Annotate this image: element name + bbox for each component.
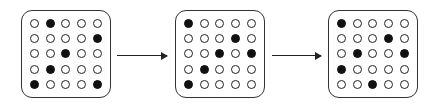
filled-dot-icon bbox=[400, 49, 409, 58]
empty-dot-icon bbox=[77, 65, 86, 74]
empty-dot-icon bbox=[384, 49, 393, 58]
empty-dot-icon bbox=[231, 19, 240, 28]
filled-dot-icon bbox=[384, 34, 393, 43]
right-arrow-icon bbox=[117, 55, 167, 56]
filled-dot-icon bbox=[184, 80, 193, 89]
empty-dot-icon bbox=[215, 34, 224, 43]
filled-dot-icon bbox=[30, 80, 39, 89]
empty-dot-icon bbox=[247, 65, 256, 74]
empty-dot-icon bbox=[30, 19, 39, 28]
empty-dot-icon bbox=[215, 19, 224, 28]
empty-dot-icon bbox=[200, 49, 209, 58]
filled-dot-icon bbox=[368, 80, 377, 89]
empty-dot-icon bbox=[30, 65, 39, 74]
filled-dot-icon bbox=[93, 80, 102, 89]
empty-dot-icon bbox=[353, 65, 362, 74]
empty-dot-icon bbox=[30, 49, 39, 58]
empty-dot-icon bbox=[77, 34, 86, 43]
empty-dot-icon bbox=[61, 19, 70, 28]
empty-dot-icon bbox=[400, 19, 409, 28]
empty-dot-icon bbox=[384, 19, 393, 28]
filled-dot-icon bbox=[200, 65, 209, 74]
empty-dot-icon bbox=[400, 80, 409, 89]
empty-dot-icon bbox=[337, 34, 346, 43]
empty-dot-icon bbox=[77, 19, 86, 28]
empty-dot-icon bbox=[384, 65, 393, 74]
empty-dot-icon bbox=[184, 49, 193, 58]
right-arrow-icon bbox=[272, 55, 321, 56]
empty-dot-icon bbox=[368, 49, 377, 58]
empty-dot-icon bbox=[384, 80, 393, 89]
grid-3 bbox=[328, 10, 418, 98]
empty-dot-icon bbox=[231, 80, 240, 89]
filled-dot-icon bbox=[46, 65, 55, 74]
filled-dot-icon bbox=[46, 19, 55, 28]
empty-dot-icon bbox=[353, 34, 362, 43]
filled-dot-icon bbox=[337, 65, 346, 74]
empty-dot-icon bbox=[337, 49, 346, 58]
empty-dot-icon bbox=[353, 19, 362, 28]
empty-dot-icon bbox=[46, 49, 55, 58]
empty-dot-icon bbox=[46, 34, 55, 43]
empty-dot-icon bbox=[200, 19, 209, 28]
empty-dot-icon bbox=[77, 80, 86, 89]
empty-dot-icon bbox=[400, 34, 409, 43]
empty-dot-icon bbox=[61, 80, 70, 89]
filled-dot-icon bbox=[61, 49, 70, 58]
filled-dot-icon bbox=[231, 34, 240, 43]
empty-dot-icon bbox=[200, 34, 209, 43]
empty-dot-icon bbox=[184, 65, 193, 74]
empty-dot-icon bbox=[30, 34, 39, 43]
empty-dot-icon bbox=[77, 49, 86, 58]
empty-dot-icon bbox=[200, 80, 209, 89]
filled-dot-icon bbox=[215, 49, 224, 58]
empty-dot-icon bbox=[337, 80, 346, 89]
empty-dot-icon bbox=[247, 80, 256, 89]
grid-1 bbox=[21, 10, 111, 98]
grid-2 bbox=[175, 10, 265, 98]
empty-dot-icon bbox=[46, 80, 55, 89]
empty-dot-icon bbox=[247, 19, 256, 28]
empty-dot-icon bbox=[231, 65, 240, 74]
empty-dot-icon bbox=[61, 34, 70, 43]
empty-dot-icon bbox=[93, 19, 102, 28]
empty-dot-icon bbox=[353, 80, 362, 89]
empty-dot-icon bbox=[93, 65, 102, 74]
empty-dot-icon bbox=[215, 65, 224, 74]
empty-dot-icon bbox=[61, 65, 70, 74]
empty-dot-icon bbox=[231, 49, 240, 58]
filled-dot-icon bbox=[337, 19, 346, 28]
filled-dot-icon bbox=[353, 49, 362, 58]
empty-dot-icon bbox=[368, 65, 377, 74]
empty-dot-icon bbox=[368, 34, 377, 43]
empty-dot-icon bbox=[400, 65, 409, 74]
empty-dot-icon bbox=[368, 19, 377, 28]
empty-dot-icon bbox=[215, 80, 224, 89]
empty-dot-icon bbox=[247, 34, 256, 43]
filled-dot-icon bbox=[184, 19, 193, 28]
empty-dot-icon bbox=[93, 49, 102, 58]
filled-dot-icon bbox=[247, 49, 256, 58]
empty-dot-icon bbox=[184, 34, 193, 43]
filled-dot-icon bbox=[93, 34, 102, 43]
